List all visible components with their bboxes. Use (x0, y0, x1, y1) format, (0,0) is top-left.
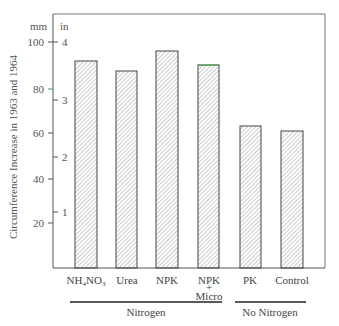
ytick-mm-100: 100 (28, 36, 45, 48)
ytick-mm-20: 20 (33, 217, 45, 229)
xtick-control: Control (275, 274, 309, 286)
bar-urea (116, 71, 137, 268)
ytick-mm-60: 60 (33, 127, 45, 139)
group-label-no-nitrogen: No Nitrogen (242, 306, 298, 318)
group-label-nitrogen: Nitrogen (126, 306, 166, 318)
xtick-nh4no3: NH4NO3 (67, 274, 106, 288)
ytick-in-2: 2 (62, 151, 68, 163)
xtick-npk-micro-line3: Micro (196, 290, 223, 302)
xtick-urea: Urea (116, 274, 137, 286)
bar-pk (240, 126, 261, 268)
y-axis-in: 4 3 2 1 (53, 36, 68, 218)
bar-npk-micro (198, 65, 219, 268)
group-nitrogen: Nitrogen (70, 302, 222, 318)
y-axis-label: Circumference Increase in 1963 and 1964 (7, 54, 19, 239)
unit-label-in: in (60, 20, 69, 32)
unit-label-mm: mm (30, 20, 48, 32)
ytick-in-3: 3 (62, 94, 68, 106)
group-no-nitrogen: No Nitrogen (235, 302, 306, 318)
bar-npk (156, 51, 178, 268)
bar-chart: mm in 100 80 60 40 20 4 3 2 1 Circumfere… (0, 0, 339, 326)
ytick-in-1: 1 (62, 206, 68, 218)
ytick-mm-40: 40 (33, 173, 45, 185)
bar-nh4no3 (75, 61, 97, 268)
x-axis-labels: NH4NO3 Urea NPK NPK + Micro PK Control (67, 274, 309, 302)
xtick-npk: NPK (156, 274, 178, 286)
y-axis-mm: 100 80 60 40 20 (28, 36, 54, 229)
bars (75, 51, 303, 268)
xtick-pk: PK (243, 274, 257, 286)
ytick-mm-80: 80 (33, 83, 45, 95)
bar-control (281, 131, 303, 268)
ytick-in-4: 4 (62, 36, 68, 48)
